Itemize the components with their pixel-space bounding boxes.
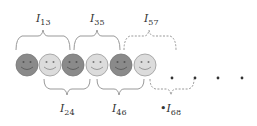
brace-top-i13 (16, 30, 70, 50)
face-4 (86, 54, 108, 76)
ellipsis-dots (171, 77, 244, 80)
face-5 (110, 54, 132, 76)
face-2 (39, 54, 61, 76)
label-i13: I13 (35, 12, 51, 27)
face-3 (62, 54, 84, 76)
label-i24: I24 (59, 102, 75, 117)
brace-bottom-i24 (44, 79, 90, 95)
label-i57: I57 (143, 12, 159, 27)
label-i68: •I68 (160, 102, 181, 117)
brace-top-i57 (124, 30, 176, 50)
face-1 (16, 54, 38, 76)
brace-bottom-i68 (150, 79, 194, 95)
interval-diagram: I13 I35 I57 (0, 0, 257, 126)
label-i46: I46 (111, 102, 127, 117)
face-6 (134, 54, 156, 76)
brace-top-i35 (74, 30, 120, 50)
label-i35: I35 (89, 12, 105, 27)
brace-bottom-i46 (97, 79, 144, 95)
